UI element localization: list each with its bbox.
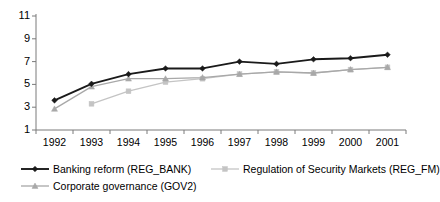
y-tick-label: 3 — [8, 101, 30, 112]
legend-label-gov2: Corporate governance (GOV2) — [53, 179, 197, 193]
x-tick-label: 1997 — [220, 137, 260, 148]
legend-swatch-reg-bank — [20, 162, 50, 176]
x-tick-label: 1996 — [183, 137, 223, 148]
x-tick-label: 2001 — [368, 137, 408, 148]
legend-label-reg-bank: Banking reform (REG_BANK) — [53, 162, 191, 176]
plot-area: 1357911 19921993199419951996199719981999… — [0, 0, 428, 150]
legend-swatch-reg-fm — [210, 162, 240, 176]
legend-swatch-gov2 — [20, 179, 50, 193]
x-tick-label: 1992 — [35, 137, 75, 148]
series-gov2 — [52, 64, 391, 111]
legend-entry-reg-bank: Banking reform (REG_BANK) — [20, 160, 191, 177]
y-tick-label: 9 — [8, 33, 30, 44]
x-tick-label: 1998 — [257, 137, 297, 148]
x-tick-label: 1999 — [294, 137, 334, 148]
x-tick-label: 1994 — [109, 137, 149, 148]
legend-row-1: Banking reform (REG_BANK) Regulation of … — [20, 160, 424, 177]
y-tick-label: 5 — [8, 78, 30, 89]
y-tick-label: 1 — [8, 124, 30, 135]
legend-label-reg-fm: Regulation of Security Markets (REG_FM) — [243, 162, 440, 176]
plot-svg — [0, 0, 428, 150]
legend-entry-gov2: Corporate governance (GOV2) — [20, 177, 197, 194]
x-tick-label: 1993 — [72, 137, 112, 148]
chart-legend: Banking reform (REG_BANK) Regulation of … — [20, 160, 424, 200]
x-tick-label: 1995 — [146, 137, 186, 148]
y-tick-label: 7 — [8, 56, 30, 67]
x-tick-label: 2000 — [331, 137, 371, 148]
legend-row-2: Corporate governance (GOV2) — [20, 177, 424, 194]
y-tick-label: 11 — [8, 10, 30, 21]
series-reg-bank — [52, 52, 391, 103]
legend-entry-reg-fm: Regulation of Security Markets (REG_FM) — [210, 160, 440, 177]
